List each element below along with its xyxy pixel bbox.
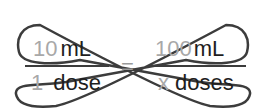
cross-multiply-diagram: 10mL 1dose = 100mL xdoses: [0, 0, 266, 110]
left-fraction-bar: [25, 65, 109, 67]
left-denominator-value: 1: [31, 70, 43, 95]
right-denominator: xdoses: [158, 72, 234, 94]
left-numerator-value: 10: [33, 36, 57, 61]
right-numerator-value: 100: [155, 36, 192, 61]
left-denominator-unit: dose: [53, 70, 101, 95]
right-numerator-unit: mL: [194, 36, 225, 61]
left-numerator: 10mL: [33, 38, 91, 60]
left-denominator: 1dose: [31, 72, 101, 94]
right-fraction-bar: [150, 65, 246, 67]
right-denominator-unit: doses: [175, 70, 234, 95]
right-numerator: 100mL: [155, 38, 224, 60]
left-numerator-unit: mL: [60, 36, 91, 61]
right-denominator-value: x: [158, 70, 169, 95]
equals-sign: =: [121, 54, 134, 80]
